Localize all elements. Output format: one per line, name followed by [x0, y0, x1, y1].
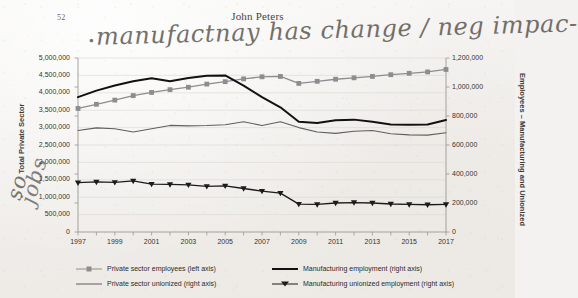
series-0-point-3	[131, 93, 136, 98]
series-0-point-20	[444, 67, 449, 72]
series-0-point-11	[278, 74, 283, 79]
legend-swatch-triangle-black	[272, 279, 298, 288]
y-axis-right-title: Employees – Manufacturing and Unionized	[518, 60, 527, 240]
legend-item-private-sector-unionized[interactable]: Private sector unionized (right axis)	[76, 279, 216, 288]
series-line-2	[78, 75, 446, 124]
series-0-point-19	[425, 70, 430, 75]
series-3-point-11	[277, 191, 283, 196]
chart-legend: Private sector employees (left axis) Man…	[76, 264, 506, 296]
series-0-point-17	[388, 72, 393, 77]
series-0-point-9	[241, 76, 246, 81]
legend-swatch-solid-black	[272, 264, 298, 273]
legend-label-2: Manufacturing employment (right axis)	[303, 265, 422, 272]
series-0-point-8	[223, 79, 228, 84]
series-0-point-1	[94, 102, 99, 107]
series-0-point-10	[260, 74, 265, 79]
series-0-point-2	[112, 98, 117, 103]
series-0-point-4	[149, 90, 154, 95]
legend-swatch-thin-gray	[76, 279, 102, 288]
legend-label-3: Manufacturing unionized employment (righ…	[303, 280, 454, 287]
legend-label-0: Private sector employees (left axis)	[107, 265, 216, 272]
series-0-point-5	[168, 87, 173, 92]
series-0-point-14	[333, 77, 338, 82]
series-0-point-13	[315, 79, 320, 84]
series-0-point-0	[76, 106, 81, 111]
series-0-point-6	[186, 85, 191, 90]
series-0-point-7	[204, 82, 209, 87]
legend-swatch-square-gray	[76, 264, 102, 273]
series-0-point-12	[296, 81, 301, 86]
legend-item-manufacturing-unionized-employment[interactable]: Manufacturing unionized employment (righ…	[272, 279, 454, 288]
series-0-point-15	[352, 75, 357, 80]
series-0-point-18	[407, 71, 412, 76]
series-0-point-16	[370, 74, 375, 79]
legend-item-private-sector-employees[interactable]: Private sector employees (left axis)	[76, 264, 216, 273]
legend-item-manufacturing-employment[interactable]: Manufacturing employment (right axis)	[272, 264, 422, 273]
legend-label-1: Private sector unionized (right axis)	[107, 280, 216, 287]
